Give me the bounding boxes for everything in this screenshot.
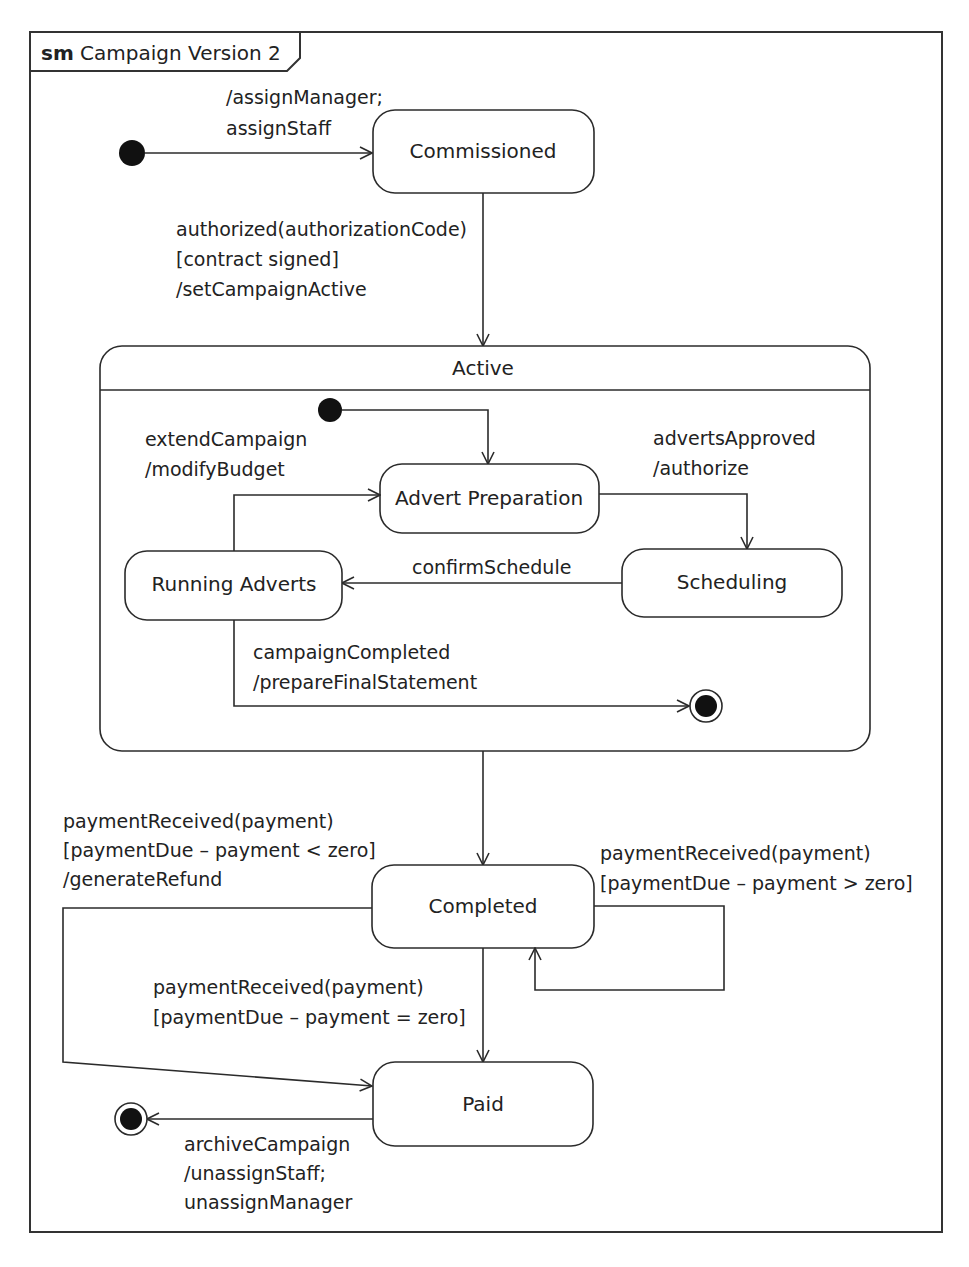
state-running-adverts-label: Running Adverts bbox=[152, 572, 317, 596]
transition-label-archive: archiveCampaign /unassignStaff; unassign… bbox=[184, 1133, 356, 1213]
transition-label-initial: /assignManager; assignStaff bbox=[226, 86, 389, 139]
transition-label-confirm-schedule: confirmSchedule bbox=[412, 556, 571, 578]
final-state-icon bbox=[115, 1103, 147, 1135]
state-paid-label: Paid bbox=[462, 1092, 504, 1116]
frame-title: sm Campaign Version 2 bbox=[41, 41, 281, 65]
initial-pseudostate-icon bbox=[119, 140, 145, 166]
state-advert-preparation[interactable]: Advert Preparation bbox=[380, 464, 599, 533]
frame-title-text: Campaign Version 2 bbox=[80, 41, 281, 65]
transition-label-full-payment: paymentReceived(payment) [paymentDue – p… bbox=[153, 976, 466, 1028]
state-advert-preparation-label: Advert Preparation bbox=[395, 486, 583, 510]
transition-label-partial-payment: paymentReceived(payment) [paymentDue – p… bbox=[600, 842, 913, 894]
inner-initial-pseudostate-icon bbox=[318, 398, 342, 422]
state-completed[interactable]: Completed bbox=[372, 865, 594, 948]
transition-label-refund: paymentReceived(payment) [paymentDue – p… bbox=[63, 810, 382, 890]
transition-label-authorized: authorized(authorizationCode) [contract … bbox=[176, 218, 473, 300]
state-paid[interactable]: Paid bbox=[373, 1062, 593, 1146]
state-running-adverts[interactable]: Running Adverts bbox=[125, 551, 342, 620]
inner-final-state-icon bbox=[690, 690, 722, 722]
state-scheduling-label: Scheduling bbox=[677, 570, 788, 594]
frame-keyword: sm bbox=[41, 41, 74, 65]
state-completed-label: Completed bbox=[428, 894, 537, 918]
state-scheduling[interactable]: Scheduling bbox=[622, 549, 842, 617]
state-commissioned[interactable]: Commissioned bbox=[373, 110, 594, 193]
state-active-label: Active bbox=[452, 356, 514, 380]
state-commissioned-label: Commissioned bbox=[409, 139, 556, 163]
state-machine-diagram: sm Campaign Version 2 /assignManager; as… bbox=[0, 0, 969, 1267]
